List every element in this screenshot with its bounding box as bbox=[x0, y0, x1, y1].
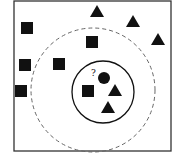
knn-diagram: ? bbox=[0, 0, 173, 154]
query-label: ? bbox=[91, 68, 96, 78]
triangle-point-icon bbox=[126, 15, 140, 27]
triangle-point-icon bbox=[108, 84, 122, 96]
class-square-points bbox=[15, 22, 98, 97]
triangle-point-icon bbox=[101, 101, 115, 113]
triangle-point-icon bbox=[151, 33, 165, 45]
square-point-icon bbox=[53, 58, 65, 70]
square-point-icon bbox=[15, 85, 27, 97]
class-triangle-points bbox=[90, 5, 165, 113]
triangle-point-icon bbox=[90, 5, 104, 17]
square-point-icon bbox=[82, 85, 94, 97]
square-point-icon bbox=[21, 22, 33, 34]
inner-solid-circle bbox=[72, 61, 134, 123]
query-point-circle-icon bbox=[98, 72, 110, 84]
square-point-icon bbox=[19, 59, 31, 71]
square-point-icon bbox=[86, 36, 98, 48]
